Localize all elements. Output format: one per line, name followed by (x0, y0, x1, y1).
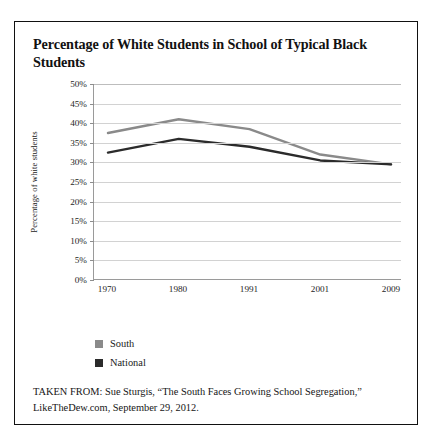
x-tick-label: 2009 (382, 284, 400, 294)
gridline (94, 241, 401, 242)
x-tick-label: 1980 (169, 284, 187, 294)
y-tick-label: 25% (47, 177, 87, 187)
y-axis-label: Percentage of white students (29, 84, 43, 280)
y-tick-label: 10% (47, 236, 87, 246)
plot-area (93, 84, 401, 280)
figure-frame: Percentage of White Students in School o… (14, 21, 418, 425)
x-tick-label: 1991 (240, 284, 258, 294)
y-tickmark (90, 260, 94, 261)
y-tick-label: 45% (47, 99, 87, 109)
x-tick-label: 1970 (98, 284, 116, 294)
gridline (94, 260, 401, 261)
y-tickmark (90, 123, 94, 124)
y-tick-label: 35% (47, 138, 87, 148)
legend-swatch-south (95, 340, 103, 348)
chart-legend: South National (95, 335, 146, 373)
gridline (94, 143, 401, 144)
y-tickmark (90, 84, 94, 85)
y-tickmark (90, 104, 94, 105)
legend-swatch-national (95, 359, 103, 367)
y-tickmark (90, 221, 94, 222)
y-tickmark (90, 143, 94, 144)
y-tick-label: 50% (47, 79, 87, 89)
gridline (94, 104, 401, 105)
chart: Percentage of white students 50%45%40%35… (33, 84, 401, 322)
y-tick-label: 0% (47, 275, 87, 285)
y-tickmark (90, 162, 94, 163)
x-axis-ticks: 19701980199120012009 (93, 284, 401, 300)
legend-item-south: South (95, 335, 146, 352)
y-tick-label: 40% (47, 118, 87, 128)
x-tick-label: 2001 (311, 284, 329, 294)
y-axis-ticks: 50%45%40%35%30%25%20%15%10%5%0% (47, 84, 91, 280)
y-tick-label: 20% (47, 197, 87, 207)
y-tickmark (90, 280, 94, 281)
y-tick-label: 30% (47, 157, 87, 167)
y-tickmark (90, 202, 94, 203)
gridline (94, 202, 401, 203)
y-tickmark (90, 182, 94, 183)
gridline (94, 182, 401, 183)
legend-label-national: National (110, 357, 146, 368)
gridline (94, 162, 401, 163)
legend-label-south: South (110, 338, 134, 349)
y-tick-label: 5% (47, 255, 87, 265)
y-tickmark (90, 241, 94, 242)
gridline (94, 221, 401, 222)
source-citation: TAKEN FROM: Sue Sturgis, “The South Face… (33, 384, 401, 415)
page-title: Percentage of White Students in School o… (33, 35, 383, 71)
legend-item-national: National (95, 354, 146, 371)
gridline (94, 123, 401, 124)
y-tick-label: 15% (47, 216, 87, 226)
gridline (94, 84, 401, 85)
